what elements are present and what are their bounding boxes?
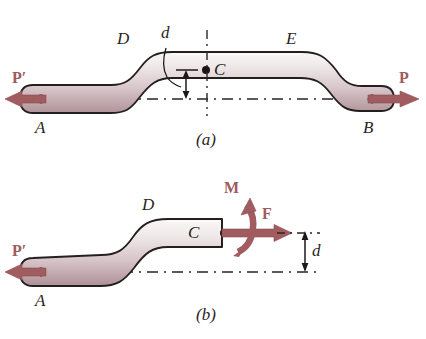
label-point-d-a: D xyxy=(117,30,129,47)
label-point-a-a: A xyxy=(35,119,45,136)
label-moment-m-b: M xyxy=(224,180,239,196)
label-force-p-prime-a: P′ xyxy=(12,70,26,86)
member-body-a xyxy=(20,52,394,113)
point-c-dot xyxy=(202,66,210,74)
label-dimension-d-b: d xyxy=(312,242,321,259)
moment-arrow-m-b xyxy=(233,198,256,257)
panel-b xyxy=(5,198,320,286)
label-point-c-b: C xyxy=(188,224,199,241)
label-point-b-a: B xyxy=(363,119,373,136)
caption-panel-b: (b) xyxy=(196,306,216,323)
label-point-e-a: E xyxy=(286,30,296,47)
caption-panel-a: (a) xyxy=(196,131,216,148)
figure-canvas xyxy=(0,0,426,339)
label-force-f-b: F xyxy=(262,206,272,222)
label-force-p-prime-b: P′ xyxy=(12,243,26,259)
mechanics-figure: D E d C A B P′ P (a) D C A P′ F M d (b) xyxy=(0,0,426,339)
label-dimension-d-a: d xyxy=(161,24,170,41)
label-force-p-a: P xyxy=(399,70,409,86)
panel-a xyxy=(5,30,419,116)
label-point-d-b: D xyxy=(142,196,154,213)
label-point-a-b: A xyxy=(35,292,45,309)
label-point-c-a: C xyxy=(214,61,225,78)
